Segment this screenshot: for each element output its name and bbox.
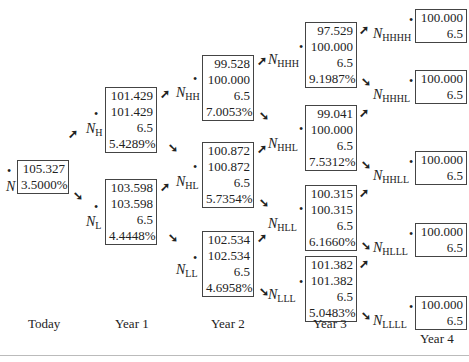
node-label-nhhhh: NHHHH [373,26,411,43]
arrow-up-icon: ➚ [160,181,170,193]
arrow-down-icon: ➘ [361,240,371,252]
node-label-nl: NL [86,214,101,231]
node-box-nhhll: 100.0006.5 [415,151,467,185]
axis-label-year4: Year 4 [420,331,454,347]
node-dot: • [94,201,98,213]
node-box-nhl: 100.872100.8726.55.7354% [202,142,254,208]
axis-label-year2: Year 2 [211,316,245,332]
axis-label-year3: Year 3 [313,316,347,332]
arrow-down-icon: ➘ [259,110,269,122]
node-box-nhhhh: 100.0006.5 [415,9,467,43]
arrow-down-icon: ➘ [361,159,371,171]
node-label-nh: NH [86,121,103,138]
arrow-down-icon: ➘ [168,232,178,244]
arrow-up-icon: ➚ [359,107,369,119]
node-value: 105.327 [21,161,65,177]
node-dot: • [299,276,303,288]
node-dot: • [193,73,197,85]
node-label-nhhll: NHHLL [373,168,409,185]
node-label-nhll: NHLL [268,216,297,233]
arrow-down-icon: ➘ [361,76,371,88]
node-label-nllll: NLLLL [373,313,407,330]
arrow-down-icon: ➘ [168,142,178,154]
axis-label-year1: Year 1 [115,316,149,332]
arrow-up-icon: ➚ [359,24,369,36]
node-dot: • [299,41,303,53]
bottom-divider [0,355,469,356]
node-dot: • [193,161,197,173]
node-dot: • [409,228,413,240]
node-box-nllll: 100.0006.5 [415,296,467,330]
node-label-nhl: NHL [176,174,199,191]
node-dot: • [409,156,413,168]
node-dot: • [299,123,303,135]
arrow-down-icon: ➘ [73,190,83,202]
node-box-nhll: 100.315100.3156.56.1660% [305,185,357,251]
node-dot: • [7,165,11,177]
node-box-n: 105.327 3.5000% [17,160,69,194]
arrow-up-icon: ➚ [359,258,369,270]
arrow-up-icon: ➚ [257,232,267,244]
node-label-nll: NLL [176,262,198,279]
arrow-down-icon: ➘ [259,197,269,209]
node-box-nlll: 101.382101.3826.55.0483% [305,256,357,322]
arrow-up-icon: ➚ [257,143,267,155]
node-dot: • [409,75,413,87]
node-dot: • [299,203,303,215]
node-dot: • [409,301,413,313]
arrow-up-icon: ➚ [359,187,369,199]
node-box-nhh: 99.528100.0006.57.0053% [202,55,254,121]
node-box-nhhhl: 100.0006.5 [415,70,467,104]
node-box-nll: 102.534102.5346.54.6958% [202,231,254,297]
node-label-nlll: NLLL [268,287,296,304]
arrow-up-icon: ➚ [257,55,267,67]
node-box-nhlll: 100.0006.5 [415,223,467,257]
node-dot: • [409,14,413,26]
arrow-down-icon: ➘ [361,310,371,322]
node-label-nhhh: NHHH [268,52,299,69]
node-label-n: N [6,179,15,195]
arrow-up-icon: ➚ [160,88,170,100]
node-box-nl: 103.598103.5986.54.4448% [105,179,157,245]
node-label-nhlll: NHLLL [373,240,408,257]
node-label-nhhhl: NHHHL [373,87,410,104]
node-box-nhhl: 99.041100.0006.57.5312% [305,105,357,171]
node-label-nhh: NHH [176,85,200,102]
node-box-nh: 101.429101.4296.55.4289% [105,87,157,153]
node-label-nhhl: NHHL [268,136,298,153]
arrow-up-icon: ➚ [68,128,78,140]
node-dot: • [94,108,98,120]
node-box-nhhh: 97.529100.0006.59.1987% [305,22,357,88]
node-rate: 3.5000% [21,177,65,193]
axis-label-today: Today [28,316,60,332]
